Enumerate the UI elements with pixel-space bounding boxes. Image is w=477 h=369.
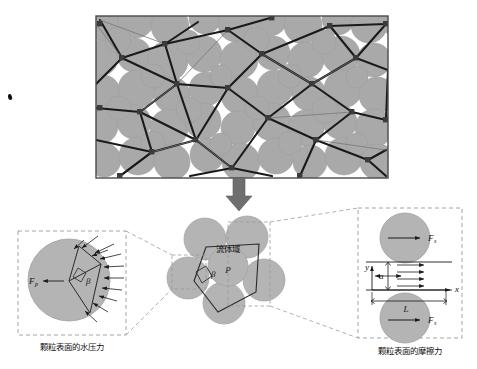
figure-root: 流体域 P β [0,0,477,369]
left-Fp-symbol: F [28,276,35,286]
left-Fp-subscript: p [34,281,38,287]
center-fluid-domain-panel: 流体域 P β [167,216,285,324]
granular-microstructure-panel [82,2,406,181]
left-panel-caption: 颗粒表面的水压力 [40,342,104,352]
right-flow-arrows [397,265,424,286]
particle-disks [82,2,406,181]
right-bottom-particle [380,293,430,343]
left-callout-connectors [126,231,172,335]
right-bottom-Fs-symbol: F [427,315,434,325]
center-beta-symbol: β [210,269,216,279]
left-beta-symbol: β [85,276,91,286]
schematic-svg: 流体域 P β [0,0,477,369]
fluid-domain-label: 流体域 [216,244,241,254]
right-top-Fs-symbol: F [427,233,434,243]
right-gap-symbol: a [379,271,384,281]
right-y-axis-label: y [364,262,369,272]
right-length-symbol: L [402,304,408,314]
right-bottom-Fs-subscript: s [434,320,437,326]
right-top-Fs-subscript: s [434,238,437,244]
water-pressure-panel: F p β 颗粒表面的水压力 [18,231,172,352]
right-panel-caption: 颗粒表面的摩擦力 [378,346,442,356]
pore-structure-field [82,2,406,181]
right-x-axis-label: x [454,284,459,294]
downward-transition-arrow [226,178,252,211]
friction-force-panel: F s F s [270,208,462,356]
